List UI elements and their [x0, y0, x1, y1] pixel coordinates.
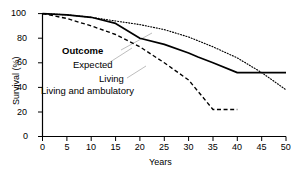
legend-title: Outcome [62, 46, 103, 56]
legend-item-living: Living [99, 74, 124, 84]
x-tick-label-15: 15 [110, 143, 120, 152]
y-tick-label-0: 0 [23, 132, 28, 141]
x-axis-ticks [43, 137, 287, 142]
x-tick-label-45: 45 [257, 143, 267, 152]
x-tick-label-35: 35 [208, 143, 218, 152]
x-tick-label-30: 30 [183, 143, 193, 152]
y-tick-label-100: 100 [11, 9, 26, 18]
survival-curve-chart: 0 20 40 60 80 100 0 5 10 15 20 25 30 35 … [0, 0, 294, 176]
legend-item-living-and-ambulatory: Living and ambulatory [41, 86, 134, 96]
y-axis-title: Survival (%) [12, 56, 21, 105]
x-tick-label-20: 20 [135, 143, 145, 152]
y-axis-ticks [38, 14, 43, 137]
x-tick-label-40: 40 [232, 143, 242, 152]
axis-lines [42, 13, 286, 137]
x-tick-label-10: 10 [86, 143, 96, 152]
x-axis-title: Years [149, 158, 172, 167]
y-tick-label-20: 20 [17, 108, 27, 117]
x-tick-label-0: 0 [40, 143, 45, 152]
y-tick-label-80: 80 [17, 34, 27, 43]
x-tick-label-5: 5 [64, 143, 69, 152]
x-tick-label-25: 25 [159, 143, 169, 152]
x-tick-label-50: 50 [281, 143, 291, 152]
legend-item-expected: Expected [73, 60, 113, 70]
